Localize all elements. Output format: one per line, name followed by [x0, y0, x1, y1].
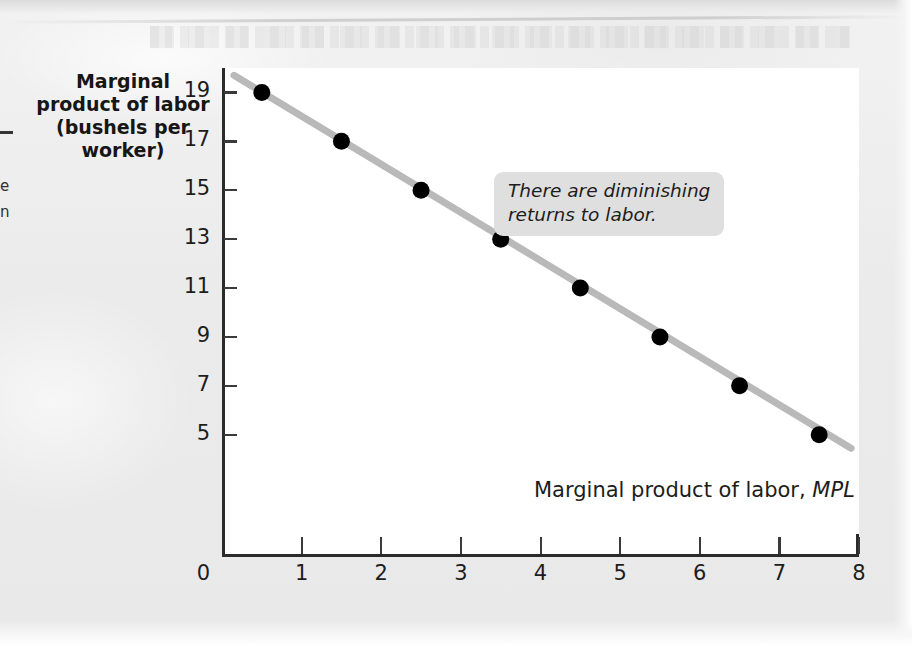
x-axis-label-5: 5: [605, 561, 635, 585]
data-point: [731, 377, 748, 394]
x-axis-label-3: 3: [446, 561, 476, 585]
y-axis-label-5: 5: [174, 421, 210, 445]
y-axis-label-11: 11: [174, 274, 210, 298]
data-point: [651, 328, 668, 345]
x-axis-label-6: 6: [685, 561, 715, 585]
margin-rule-fragment: [0, 131, 13, 134]
sheet-edge-bottom: [0, 620, 912, 646]
page-crease: [0, 15, 912, 24]
data-point: [413, 182, 430, 199]
x-axis-label-2: 2: [366, 561, 396, 585]
x-axis-label-7: 7: [764, 561, 794, 585]
data-point: [572, 280, 589, 297]
y-axis-label-7: 7: [174, 372, 210, 396]
data-point: [811, 426, 828, 443]
mpl-line-segment: [234, 75, 851, 448]
x-axis-label-8: 8: [844, 561, 874, 585]
curve-label-symbol: MPL: [812, 478, 854, 502]
y-axis-label-19: 19: [174, 78, 210, 102]
data-point: [253, 84, 270, 101]
y-axis-label-17: 17: [174, 127, 210, 151]
data-point: [333, 133, 350, 150]
sheet-edge-right: [894, 0, 912, 646]
diminishing-returns-annotation: There are diminishing returns to labor.: [494, 172, 724, 236]
y-axis-tick-labels: 19171513119750: [150, 0, 210, 646]
curve-label-text: Marginal product of labor,: [534, 478, 812, 502]
scanned-textbook-page: e n Marginal product of labor (bushels p…: [0, 0, 912, 646]
y-axis-label-15: 15: [174, 176, 210, 200]
mpl-line: [234, 75, 851, 448]
axis-origin-label: 0: [174, 561, 210, 585]
x-axis-label-1: 1: [287, 561, 317, 585]
sheet-edge-top: [0, 0, 912, 14]
bleed-through-text: [150, 26, 850, 48]
margin-text-fragment-top: e: [0, 178, 9, 194]
x-axis-label-4: 4: [526, 561, 556, 585]
y-axis-label-9: 9: [174, 323, 210, 347]
curve-label: Marginal product of labor, MPL: [534, 478, 855, 502]
margin-text-fragment-bottom: n: [0, 204, 10, 220]
y-axis-label-13: 13: [174, 225, 210, 249]
